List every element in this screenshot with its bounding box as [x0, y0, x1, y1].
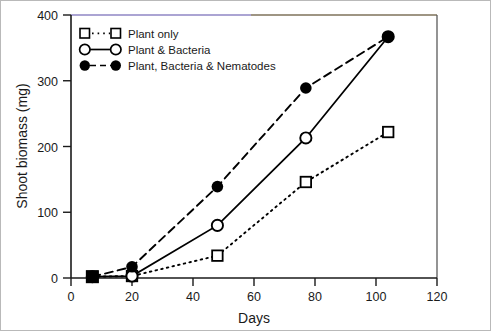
data-point-filled-circle[interactable] [126, 261, 138, 273]
series-line [92, 132, 388, 277]
x-tick-label-60: 60 [247, 290, 261, 304]
y-tick-label-100: 100 [37, 206, 58, 220]
y-axis-ticks [63, 15, 71, 278]
open-circle-icon [111, 44, 121, 54]
legend-entry-plant-only[interactable]: Plant only [80, 28, 179, 40]
series-plant-only [87, 127, 393, 282]
series-line [92, 37, 388, 277]
data-point-filled-circle[interactable] [300, 82, 312, 94]
y-tick-label-400: 400 [37, 9, 58, 23]
legend-entry-plant-bacteria[interactable]: Plant & Bacteria [80, 44, 211, 56]
data-point-filled-circle[interactable] [212, 181, 224, 193]
figure-container: 400 300 200 100 0 0 20 40 60 80 100 120 [0, 0, 491, 331]
data-point-open-circle[interactable] [212, 220, 223, 231]
legend-label-plant-bacteria: Plant & Bacteria [128, 44, 211, 56]
data-point-open-circle[interactable] [300, 132, 311, 143]
data-point-origin-cluster[interactable] [86, 270, 99, 283]
data-point-open-square[interactable] [301, 177, 312, 188]
data-point-filled-circle[interactable] [382, 31, 394, 43]
legend: Plant only Plant & Bacteria Plant, Bacte… [80, 28, 276, 72]
chart-canvas: 400 300 200 100 0 0 20 40 60 80 100 120 [1, 1, 491, 331]
y-tick-label-0: 0 [51, 272, 58, 286]
x-tick-label-20: 20 [125, 290, 139, 304]
x-tick-label-120: 120 [427, 290, 448, 304]
series-line [92, 37, 388, 277]
x-axis-title: Days [238, 310, 270, 326]
data-point-open-square[interactable] [212, 250, 223, 261]
x-tick-label-40: 40 [186, 290, 200, 304]
open-square-icon [80, 29, 90, 39]
y-axis-title: Shoot biomass (mg) [14, 83, 30, 208]
x-tick-label-80: 80 [308, 290, 322, 304]
filled-circle-icon [111, 60, 121, 70]
data-point-open-square[interactable] [383, 127, 394, 138]
open-square-icon [111, 29, 121, 39]
legend-label-plant-bacteria-nematodes: Plant, Bacteria & Nematodes [128, 60, 276, 72]
x-tick-label-100: 100 [366, 290, 387, 304]
legend-label-plant-only: Plant only [128, 28, 179, 40]
line-chart: 400 300 200 100 0 0 20 40 60 80 100 120 [1, 1, 491, 331]
open-circle-icon [80, 44, 90, 54]
filled-circle-icon [80, 60, 90, 70]
y-tick-label-200: 200 [37, 141, 58, 155]
legend-entry-plant-bacteria-nematodes[interactable]: Plant, Bacteria & Nematodes [80, 60, 276, 72]
x-tick-label-0: 0 [68, 290, 75, 304]
y-tick-label-300: 300 [37, 75, 58, 89]
